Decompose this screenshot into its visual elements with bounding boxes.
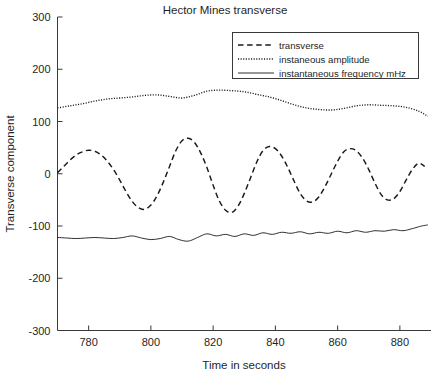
y-tick-label: -100 xyxy=(28,220,50,232)
legend-label: instantaneous frequency mHz xyxy=(279,68,406,79)
x-axis-label: Time in seconds xyxy=(202,359,286,371)
y-tick-label: 200 xyxy=(32,63,50,75)
x-tick-label: 780 xyxy=(79,336,97,348)
x-tick-label: 880 xyxy=(391,336,409,348)
chart-title: Hector Mines transverse xyxy=(163,4,288,16)
x-tick-label: 820 xyxy=(204,336,222,348)
legend-label: transverse xyxy=(279,40,324,51)
y-tick-label: -300 xyxy=(28,325,50,337)
y-tick-label: 100 xyxy=(32,116,50,128)
chart-legend: transverseinstaneous amplitudeinstantane… xyxy=(233,33,419,79)
chart-canvas: Hector Mines transverse 3002001000-100-2… xyxy=(0,0,440,378)
x-tick-label: 860 xyxy=(328,336,346,348)
chart-figure: Hector Mines transverse 3002001000-100-2… xyxy=(0,0,440,378)
x-tick-label: 800 xyxy=(142,336,160,348)
y-tick-label: 0 xyxy=(44,168,50,180)
y-axis-label: Transverse component xyxy=(4,115,16,233)
y-tick-label: 300 xyxy=(32,11,50,23)
legend-label: instaneous amplitude xyxy=(279,54,370,65)
x-tick-label: 840 xyxy=(266,336,284,348)
y-tick-label: -200 xyxy=(28,272,50,284)
